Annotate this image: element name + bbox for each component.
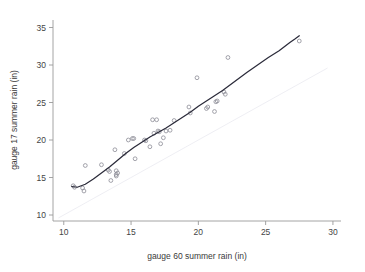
fit-curve-group — [72, 36, 299, 188]
data-point — [159, 142, 163, 146]
data-point — [109, 179, 113, 183]
data-point — [161, 136, 165, 140]
data-point — [187, 105, 191, 109]
data-point — [151, 118, 155, 122]
y-tick-label: 30 — [37, 60, 47, 70]
x-axis-ticks: 1015202530 — [59, 221, 338, 237]
data-point — [148, 145, 152, 149]
y-axis-ticks: 101520253035 — [37, 23, 53, 221]
identity-reference-line — [58, 68, 327, 218]
data-point — [100, 163, 104, 167]
y-tick-label: 15 — [37, 173, 47, 183]
data-point — [168, 128, 172, 132]
data-point — [213, 110, 217, 114]
data-point — [297, 39, 301, 43]
lowess-fit-curve — [72, 36, 299, 188]
data-point — [226, 56, 230, 60]
y-tick-label: 25 — [37, 98, 47, 108]
x-axis-title: gauge 60 summer rain (in) — [147, 251, 247, 261]
chart-figure: 101520253035 1015202530 gauge 60 summer … — [0, 0, 365, 272]
data-point — [133, 157, 137, 161]
data-point — [155, 118, 159, 122]
data-point — [113, 148, 117, 152]
y-axis-title: gauge 17 summer rain (in) — [9, 70, 19, 170]
x-tick-label: 10 — [59, 227, 69, 237]
data-point — [195, 76, 199, 80]
data-point — [83, 164, 87, 168]
scatter-plot: 101520253035 1015202530 gauge 60 summer … — [0, 0, 365, 272]
y-tick-label: 35 — [37, 23, 47, 33]
x-tick-label: 30 — [328, 227, 338, 237]
data-point — [126, 138, 130, 142]
y-tick-label: 20 — [37, 135, 47, 145]
y-tick-label: 10 — [37, 210, 47, 220]
x-tick-label: 25 — [261, 227, 271, 237]
data-point — [164, 129, 168, 133]
x-tick-label: 15 — [126, 227, 136, 237]
reference-line-group — [58, 68, 327, 218]
x-tick-label: 20 — [194, 227, 204, 237]
